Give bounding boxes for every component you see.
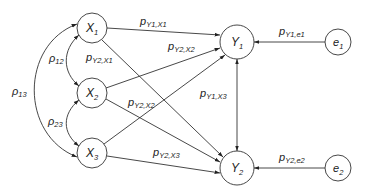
label-p-y1-x1: pY1,X1 xyxy=(139,15,167,29)
node-x1: X1 xyxy=(77,13,107,43)
label-rho12: ρ12 xyxy=(48,52,64,66)
label-rho13: ρ13 xyxy=(11,85,27,99)
label-p-y1-x3: pY1,X3 xyxy=(199,87,227,101)
node-e1: e1 xyxy=(325,29,351,55)
label-p-y1-x2: pY2,X2 xyxy=(167,40,195,54)
node-x3: X3 xyxy=(77,138,107,168)
path-arrow-x2-y1 xyxy=(106,48,220,88)
node-x2: X2 xyxy=(77,78,107,108)
label-p-y2-x1: pY2,X1 xyxy=(85,51,113,65)
label-rho23: ρ23 xyxy=(47,115,63,129)
path-arrow-x1-y1 xyxy=(107,28,220,35)
label-p-y1-e1: pY1,e1 xyxy=(278,25,305,39)
label-p-y2-x3: pY2,X3 xyxy=(152,146,180,160)
correlation-arc-rho23 xyxy=(66,100,79,146)
node-y2: Y2 xyxy=(220,151,254,185)
label-p-y2-e2: pY2,e2 xyxy=(278,151,306,165)
correlation-arc-rho12 xyxy=(66,35,79,86)
label-p-y2-x2: pY2,X2 xyxy=(127,96,155,110)
node-y1: Y1 xyxy=(220,25,254,59)
path-diagram: X1 X2 X3 Y1 Y2 e1 e2 ρ13 ρ12 ρ23 pY1,X1 … xyxy=(0,0,368,193)
node-e2: e2 xyxy=(325,155,351,181)
